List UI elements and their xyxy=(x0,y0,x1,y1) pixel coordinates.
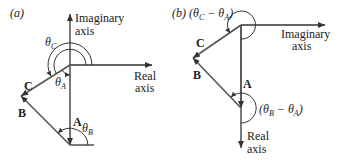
real-axis-label-b-2: axis xyxy=(247,142,267,156)
imag-axis-label-a-1: Imaginary xyxy=(75,11,124,25)
theta-a-label: θA xyxy=(55,75,66,91)
vector-c-label-a: C xyxy=(24,79,33,93)
imag-axis-label-a-2: axis xyxy=(75,24,95,38)
vector-a-label-b: A xyxy=(243,77,252,91)
vector-b-arrow-b xyxy=(193,58,241,108)
vector-b-label-a: B xyxy=(18,106,26,120)
panel-b-tag: (b) xyxy=(172,6,186,20)
panel-a-tag: (a) xyxy=(10,6,24,20)
real-axis-label-b-1: Real xyxy=(247,129,270,143)
vector-c-label-b: C xyxy=(196,36,205,50)
vector-b-arrow-a xyxy=(21,96,70,145)
panel-b: (b) (θC − θA) Imaginary axis Real axis A… xyxy=(172,6,330,156)
vector-a-label-a: A xyxy=(73,115,82,129)
theta-c-label: θC xyxy=(45,35,57,51)
imag-axis-label-b-2: axis xyxy=(292,39,312,53)
phasor-diagram: (a) Imaginary axis Real axis A B C θC θA… xyxy=(0,0,339,160)
angle-c-minus-a-label: (θC − θA) xyxy=(189,6,233,22)
panel-a: (a) Imaginary axis Real axis A B C θC θA… xyxy=(10,6,157,145)
angle-b-minus-a-arc xyxy=(231,93,256,123)
vector-b-label-b: B xyxy=(193,68,201,82)
theta-a-arc xyxy=(62,70,70,75)
angle-b-minus-a-label: (θB − θA) xyxy=(259,102,303,118)
theta-b-label: θB xyxy=(82,121,93,137)
real-axis-label-a-2: axis xyxy=(135,81,155,95)
